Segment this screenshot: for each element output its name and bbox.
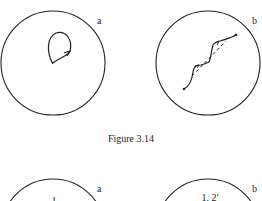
diagram-canvas: a b Figure 3.14 a 1 b 1, 2′ [0, 0, 262, 201]
loop-path [48, 32, 70, 64]
step-arrow-icon [215, 41, 219, 45]
dashed-diagonal [192, 41, 226, 76]
label-b-bottom: b [252, 183, 257, 194]
label-a-bottom: a [97, 183, 102, 194]
top-panel-b: b [156, 11, 260, 115]
path-start-dot [183, 88, 186, 91]
inner-text-a: 1 [52, 195, 57, 201]
label-b: b [252, 15, 257, 26]
top-panel-a: a [1, 11, 105, 115]
figure-caption: Figure 3.14 [108, 133, 154, 144]
inner-text-b: 1, 2′ [201, 192, 218, 201]
label-a: a [97, 15, 102, 26]
bottom-panel-a: a 1 [1, 179, 105, 201]
bottom-panel-b: b 1, 2′ [156, 179, 260, 201]
path-end-dot [235, 34, 238, 37]
stepped-path [184, 35, 236, 89]
